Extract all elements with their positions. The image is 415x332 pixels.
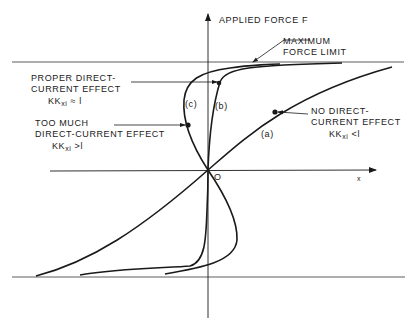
max-force-line1: MAXIMUM xyxy=(283,36,331,47)
x-axis xyxy=(50,170,376,171)
point-c xyxy=(185,122,190,127)
max-force-line2: FORCE LIMIT xyxy=(283,47,347,58)
curve-b-label: (b) xyxy=(215,101,228,112)
none-line1: NO DIRECT- xyxy=(311,106,369,117)
point-a xyxy=(272,109,277,114)
proper-condition: KKxi ≈ l xyxy=(48,96,82,109)
origin-label: O xyxy=(214,172,222,183)
curve-c-label: (c) xyxy=(185,99,197,110)
y-axis-label: APPLIED FORCE F xyxy=(219,15,308,26)
proper-line1: PROPER DIRECT- xyxy=(31,73,116,84)
too-much-line2: DIRECT-CURRENT EFFECT xyxy=(35,129,165,140)
leader-max-force-diag xyxy=(253,40,284,62)
none-condition: KKxi <l xyxy=(329,129,360,142)
curve-a-label: (a) xyxy=(261,129,274,140)
x-axis-label: x xyxy=(357,173,361,184)
too-much-line1: TOO MUCH xyxy=(35,118,89,129)
point-b xyxy=(217,81,222,86)
too-much-condition: KKxi >l xyxy=(52,141,83,154)
proper-line2: CURRENT EFFECT xyxy=(31,84,121,95)
none-line2: CURRENT EFFECT xyxy=(311,117,401,128)
force-diagram xyxy=(0,0,415,332)
curve-c xyxy=(165,64,280,274)
